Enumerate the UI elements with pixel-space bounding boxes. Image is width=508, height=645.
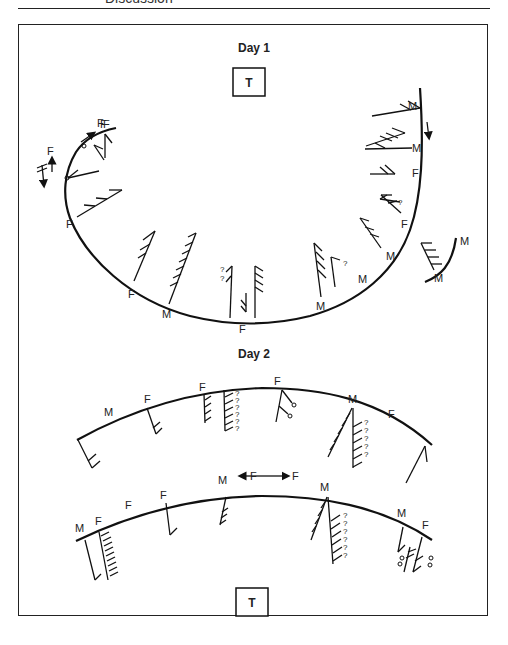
label-f: F <box>125 499 132 511</box>
label-f: F <box>422 519 429 531</box>
question-mark: ? <box>220 265 225 274</box>
question-mark: ? <box>398 198 403 207</box>
label-f: F <box>274 375 281 387</box>
label-m: M <box>434 272 443 284</box>
label-m: M <box>397 507 406 519</box>
label-m: M <box>316 300 325 312</box>
label-f: F <box>412 167 419 179</box>
label-f: F <box>103 118 110 130</box>
label-m: M <box>408 100 417 112</box>
day2-tee-box: T <box>236 588 268 616</box>
label-m: M <box>104 406 113 418</box>
shot-pattern-diagram: Day 1 T <box>0 0 508 645</box>
label-f: F <box>239 323 246 335</box>
label-f: F <box>95 515 102 527</box>
tee-label: T <box>245 76 253 90</box>
day1-green-outline <box>65 88 422 324</box>
label-f: F <box>66 218 73 230</box>
label-m: M <box>348 393 357 405</box>
tee-label: T <box>248 596 256 610</box>
label-m: M <box>320 481 329 493</box>
label-f: F <box>250 470 257 482</box>
label-m: M <box>218 474 227 486</box>
question-mark: ? <box>343 259 348 268</box>
day1-tee-box: T <box>233 68 265 96</box>
question-mark: ? <box>343 551 348 560</box>
label-f: F <box>128 288 135 300</box>
day1-shot-marks <box>65 101 442 318</box>
label-m: M <box>460 235 469 247</box>
day1-title: Day 1 <box>238 41 270 55</box>
question-mark: ? <box>364 450 369 459</box>
label-f: F <box>401 218 408 230</box>
day2-upper-green-edge <box>77 388 432 445</box>
question-mark: ? <box>220 274 225 283</box>
question-mark: ? <box>235 424 240 433</box>
label-m: M <box>75 522 84 534</box>
day2-shot-marks <box>78 390 433 580</box>
label-f: F <box>292 470 299 482</box>
label-f: F <box>388 408 395 420</box>
day2-title: Day 2 <box>238 347 270 361</box>
label-f: F <box>199 381 206 393</box>
label-m: M <box>386 250 395 262</box>
label-f: F <box>47 145 54 157</box>
label-f: F <box>144 393 151 405</box>
label-m: M <box>412 142 421 154</box>
label-m: M <box>162 308 171 320</box>
label-m: M <box>358 273 367 285</box>
label-f: F <box>160 489 167 501</box>
arrow-down-icon <box>427 122 429 138</box>
